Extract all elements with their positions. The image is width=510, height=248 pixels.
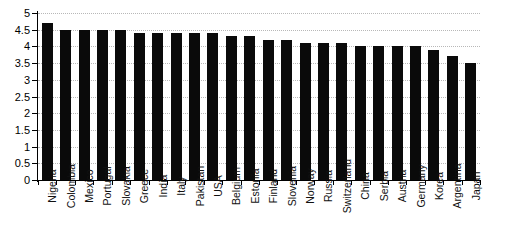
x-axis-label-text: Portugal (102, 166, 113, 205)
y-tick-mark (32, 63, 37, 64)
x-axis-label-text: Switzerland (342, 159, 353, 213)
bar (152, 33, 163, 180)
bar (79, 30, 90, 180)
x-axis-label-portugal: Portugal (97, 184, 108, 246)
x-axis-label-pakistan: Pakistan (189, 184, 200, 246)
bar (428, 50, 439, 180)
x-axis-label-text: Austria (397, 170, 408, 203)
y-tick-label: 1.5 (0, 125, 30, 135)
x-axis-label-finland: Finland (263, 184, 274, 246)
x-tick-mark (38, 181, 39, 185)
y-tick-label: 4.5 (0, 25, 30, 35)
x-axis-label-text: Mexico (84, 169, 95, 202)
x-axis-label-norway: Norway (300, 184, 311, 246)
bar (447, 56, 458, 180)
y-tick-label: 3 (0, 75, 30, 85)
x-axis-label-china: China (355, 184, 366, 246)
bar (115, 30, 126, 180)
bar (97, 30, 108, 180)
x-axis-label-estonia: Estonia (244, 184, 255, 246)
y-tick-label: 0.5 (0, 158, 30, 168)
x-tick-mark (93, 181, 94, 185)
bar (42, 23, 53, 180)
x-axis-label-text: Italy (176, 176, 187, 195)
x-tick-mark (480, 181, 481, 185)
x-axis-label-text: Japan (471, 172, 482, 201)
y-tick-mark (32, 13, 37, 14)
x-axis-label-text: Belgium (231, 167, 242, 205)
y-tick-label: 5 (0, 8, 30, 18)
x-axis-label-text: Serbia (379, 171, 390, 201)
bar (392, 46, 403, 180)
bar (171, 33, 182, 180)
x-tick-mark (185, 181, 186, 185)
x-tick-mark (222, 181, 223, 185)
bar (244, 36, 255, 180)
x-axis-label-text: Nigeria (47, 169, 58, 202)
y-tick-mark (32, 46, 37, 47)
x-axis-label-text: Colombia (66, 164, 77, 208)
x-axis-label-colombia: Colombia (60, 184, 71, 246)
x-tick-mark (56, 181, 57, 185)
x-axis-label-text: Pakistan (195, 166, 206, 206)
x-axis-label-austria: Austria (392, 184, 403, 246)
x-tick-mark (406, 181, 407, 185)
bar (60, 30, 71, 180)
x-tick-mark (112, 181, 113, 185)
y-tick-mark (32, 147, 37, 148)
x-axis-label-text: Slovakia (121, 166, 132, 206)
bar (226, 36, 237, 180)
y-tick-label: 4 (0, 41, 30, 51)
x-tick-mark (388, 181, 389, 185)
bar-chart: 00.511.522.533.544.55 NigeriaColombiaMex… (0, 0, 510, 248)
x-tick-mark (462, 181, 463, 185)
y-tick-label: 1 (0, 142, 30, 152)
x-tick-mark (130, 181, 131, 185)
bar (318, 43, 329, 180)
x-axis-label-germany: Germany (410, 184, 421, 246)
x-axis-label-japan: Japan (465, 184, 476, 246)
y-tick-mark (32, 97, 37, 98)
x-axis-label-text: Greece (139, 169, 150, 203)
x-axis-label-text: China (360, 172, 371, 199)
x-axis-label-nigeria: Nigeria (42, 184, 53, 246)
y-tick-mark (32, 163, 37, 164)
y-tick-label: 3.5 (0, 58, 30, 68)
x-axis-label-belgium: Belgium (226, 184, 237, 246)
y-tick-mark (32, 80, 37, 81)
x-tick-mark (370, 181, 371, 185)
x-tick-mark (296, 181, 297, 185)
x-axis-label-india: India (152, 184, 163, 246)
y-tick-label: 2 (0, 108, 30, 118)
x-axis-label-text: Russia (323, 170, 334, 202)
x-tick-mark (443, 181, 444, 185)
y-tick-label: 2.5 (0, 92, 30, 102)
x-axis-label-text: Norway (305, 168, 316, 204)
y-tick-mark (32, 130, 37, 131)
x-tick-mark (351, 181, 352, 185)
x-axis-label-text: India (158, 175, 169, 198)
x-axis-category-labels: NigeriaColombiaMexicoPortugalSlovakiaGre… (38, 184, 480, 248)
x-tick-mark (259, 181, 260, 185)
x-axis-label-text: Finland (268, 169, 279, 203)
x-axis-label-text: USA (213, 175, 224, 197)
bar (300, 43, 311, 180)
x-axis-label-switzerland: Switzerland (336, 184, 347, 246)
x-tick-mark (204, 181, 205, 185)
x-axis-label-text: Slovenia (287, 166, 298, 206)
x-axis-label-text: Argentina (452, 164, 463, 209)
x-axis-label-slovakia: Slovakia (115, 184, 126, 246)
x-axis-label-text: Germany (416, 164, 427, 207)
x-axis-label-text: Korea (434, 172, 445, 200)
x-axis-label-mexico: Mexico (79, 184, 90, 246)
bar (189, 33, 200, 180)
x-tick-mark (277, 181, 278, 185)
x-tick-mark (425, 181, 426, 185)
x-axis-label-serbia: Serbia (373, 184, 384, 246)
y-axis-tick-labels: 00.511.522.533.544.55 (0, 0, 30, 248)
bar (281, 40, 292, 180)
x-axis-label-slovenia: Slovenia (281, 184, 292, 246)
x-axis-label-argentina: Argentina (447, 184, 458, 246)
y-tick-mark (32, 30, 37, 31)
x-axis-label-usa: USA (207, 184, 218, 246)
